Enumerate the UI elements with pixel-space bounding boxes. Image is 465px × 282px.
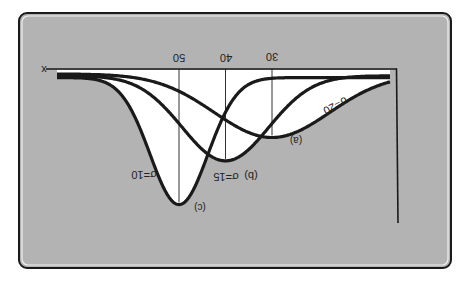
normal-curves-chart: x 50 40 30 σ=20 (a) (b) σ=15 (c) σ=10 (0, 0, 465, 282)
label-c: (c) (194, 202, 206, 213)
label-sigma-15: σ=15 (213, 171, 238, 183)
x-axis-label: x (41, 64, 47, 76)
label-sigma-10: σ=10 (131, 169, 156, 181)
tick-label-50: 50 (173, 52, 185, 64)
tick-label-30: 30 (266, 51, 278, 63)
tick-label-40: 40 (220, 52, 232, 64)
label-a: (a) (290, 135, 302, 146)
label-b: (b) (244, 170, 257, 182)
chart-figure: x 50 40 30 σ=20 (a) (b) σ=15 (c) σ=10 (0, 0, 465, 282)
